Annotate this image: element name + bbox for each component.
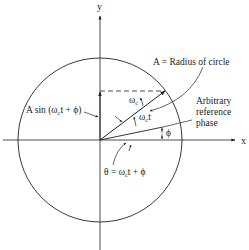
omega-rotation-arrow	[140, 98, 143, 106]
phasor-diagram: x y A = Radius of circle A sin (ωct + ϕ)…	[0, 0, 249, 250]
reference-label-line1: Arbitrary	[196, 96, 232, 106]
reference-label-line3: phase	[196, 118, 218, 128]
x-axis-label: x	[241, 135, 246, 146]
theta-leader	[113, 143, 126, 165]
angular-velocity-label: ωc	[129, 95, 138, 106]
wct-angle-arrow	[134, 117, 136, 126]
radius-label: A = Radius of circle	[153, 57, 230, 67]
phase-label: ϕ	[166, 128, 171, 138]
projection-label: A sin (ωct + ϕ)	[26, 105, 81, 116]
y-axis-label: y	[97, 1, 102, 12]
reference-leader	[163, 120, 192, 127]
rotation-angle-label: ωct	[139, 112, 151, 123]
theta-label: θ = ωct + ϕ	[104, 167, 146, 178]
projection-leader	[84, 112, 98, 117]
reference-label-line2: reference	[196, 107, 231, 117]
theta-arrow-small	[129, 145, 131, 151]
vector-pointer	[115, 116, 122, 122]
